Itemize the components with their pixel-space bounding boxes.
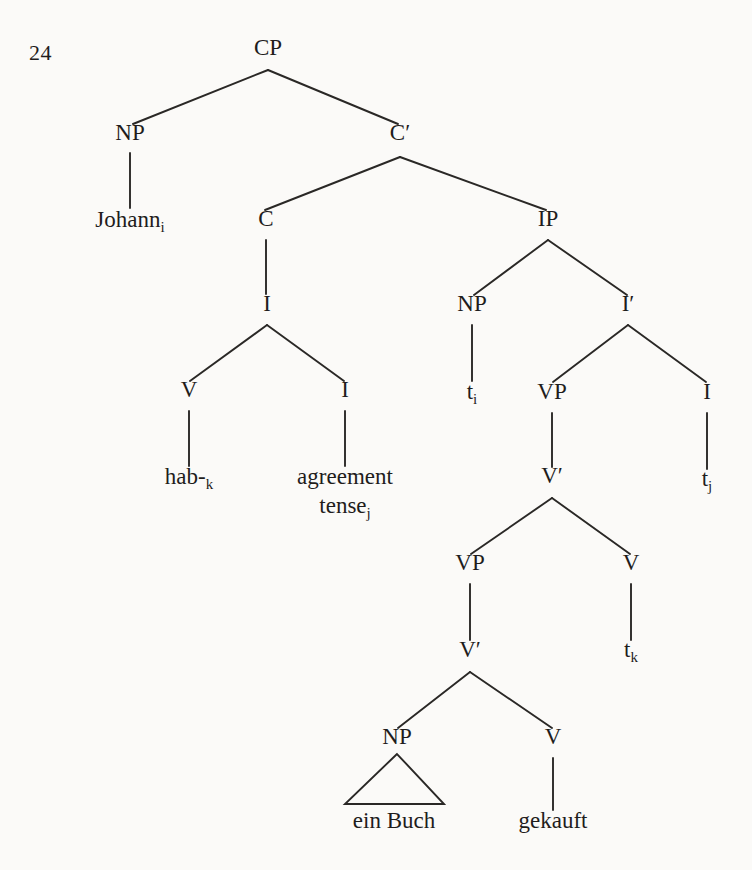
tree-node-ibar: I′ [622, 291, 635, 316]
tree-node-i2: I [341, 377, 349, 402]
tree-leaf-ti: ti [467, 379, 478, 407]
node-label: V′ [459, 637, 481, 662]
node-subscript: i [161, 219, 165, 235]
tree-node-v1: V [181, 377, 198, 402]
syntax-tree-diagram: CPNPJohanniC′CIPIVIhab-kagreementtensejN… [0, 0, 752, 870]
tree-node-np3: NP [382, 724, 411, 749]
tree-node-i1: I [263, 291, 271, 316]
tree-branch-vbar2-np3 [398, 672, 470, 728]
node-label: agreement [297, 464, 393, 489]
tree-leaf-hab: hab-k [165, 464, 214, 492]
node-label: C′ [390, 120, 410, 145]
tree-node-vbar1: V′ [541, 463, 563, 488]
tree-leaf-tj: tj [702, 466, 713, 494]
tree-branch-cbar-ip [400, 157, 546, 210]
tree-branch-ip-ibar [548, 240, 627, 295]
tree-branch-cbar-c [265, 157, 400, 210]
tree-branch-i1-i2 [267, 325, 344, 381]
node-label: NP [457, 291, 486, 316]
node-label: hab- [165, 464, 206, 489]
tree-leaf-johann: Johanni [95, 207, 164, 235]
ellipsis-triangle-np3 [345, 754, 444, 804]
tree-triangles [345, 754, 444, 804]
node-subscript: k [206, 476, 214, 492]
tree-node-cbar: C′ [390, 120, 410, 145]
node-subscript: j [707, 478, 712, 494]
node-label: V′ [541, 463, 563, 488]
tree-branch-ibar-vp1 [553, 325, 628, 382]
tree-branch-ip-np2 [474, 240, 548, 295]
figure-page: 24 CPNPJohanniC′CIPIVIhab-kagreementtens… [0, 0, 752, 870]
node-label: Johann [95, 207, 161, 232]
node-label: V [623, 550, 640, 575]
node-subscript: i [473, 391, 477, 407]
tree-branch-vbar2-v3 [470, 672, 552, 728]
node-label: tense [319, 493, 366, 518]
node-label: ein Buch [353, 808, 436, 833]
node-label: VP [455, 550, 484, 575]
tree-branch-cp-cbar [268, 70, 398, 124]
tree-leaf-gekauft: gekauft [519, 808, 589, 833]
node-subscript: j [366, 505, 371, 521]
node-label: C [258, 206, 273, 231]
node-label: NP [382, 724, 411, 749]
tree-branch-i1-v1 [190, 325, 267, 381]
tree-node-np2: NP [457, 291, 486, 316]
node-label: V [181, 377, 198, 402]
node-label: V [545, 724, 562, 749]
tree-branch-vbar1-v2 [552, 498, 630, 554]
node-label: NP [115, 120, 144, 145]
tree-node-v2: V [623, 550, 640, 575]
node-label: VP [537, 379, 566, 404]
tree-node-np1: NP [115, 120, 144, 145]
tree-node-ip: IP [538, 206, 558, 231]
tree-node-c: C [258, 206, 273, 231]
tree-node-v3: V [545, 724, 562, 749]
node-label: IP [538, 206, 558, 231]
tree-branch-cp-np1 [133, 70, 268, 124]
node-label: I [263, 291, 271, 316]
tree-branch-vbar1-vp2 [471, 498, 552, 554]
node-label: I [341, 377, 349, 402]
tree-leaf-tk: tk [624, 637, 638, 665]
tree-leaf-einbuch: ein Buch [353, 808, 436, 833]
tree-node-vbar2: V′ [459, 637, 481, 662]
node-subscript: k [630, 649, 638, 665]
node-label: I [703, 379, 711, 404]
tree-node-vp2: VP [455, 550, 484, 575]
tree-edges [130, 70, 707, 810]
node-label: CP [254, 35, 282, 60]
node-label: I′ [622, 291, 635, 316]
tree-branch-ibar-i3 [628, 325, 706, 382]
tree-leaf-agreement: agreement [297, 464, 393, 489]
tree-node-cp: CP [254, 35, 282, 60]
tree-node-vp1: VP [537, 379, 566, 404]
node-label: gekauft [519, 808, 589, 833]
tree-nodes: CPNPJohanniC′CIPIVIhab-kagreementtensejN… [95, 35, 712, 833]
tree-node-i3: I [703, 379, 711, 404]
tree-leaf-tense: tensej [319, 493, 370, 521]
